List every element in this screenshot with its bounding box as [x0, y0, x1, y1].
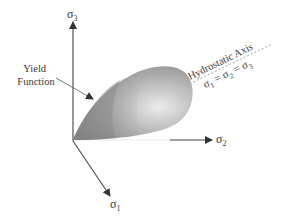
sigma3-label: σ3 — [67, 7, 77, 23]
yield-surface — [73, 66, 193, 140]
sigma1-label: σ1 — [110, 197, 120, 213]
sigma1-axis — [73, 141, 110, 196]
yield-function-pointer — [56, 78, 93, 99]
yield-surface-diagram: σ3 σ2 σ1 Yield Function Hydrostatic Axis… — [0, 0, 284, 221]
yield-function-label: Yield Function — [17, 63, 55, 87]
sigma2-label: σ2 — [216, 132, 226, 148]
